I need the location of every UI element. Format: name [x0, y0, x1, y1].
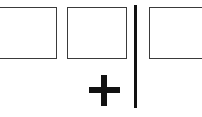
rectangle-box-1: [0, 7, 57, 59]
plus-icon: [89, 75, 120, 106]
plus-vertical-stroke: [101, 75, 107, 106]
rectangle-box-2: [67, 7, 127, 59]
rectangle-box-3: [149, 7, 202, 59]
vertical-divider: [134, 5, 137, 108]
